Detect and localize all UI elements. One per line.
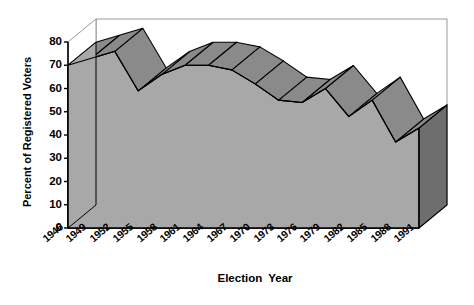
x-axis-tick-label: 1964 (180, 220, 205, 244)
x-axis-tick-label: 1982 (321, 220, 346, 244)
x-axis-tick-label: 1970 (227, 220, 252, 244)
x-axis-tick-label: 1988 (368, 220, 393, 244)
chart-container: Percent of Registered Voters 01020304050… (0, 0, 474, 305)
x-axis-tick-label: 1967 (204, 220, 229, 244)
x-axis-tick-label: 1976 (274, 220, 299, 244)
x-axis-tick-label: 1958 (134, 220, 159, 244)
x-axis-tick-label: 1949 (63, 220, 88, 244)
x-axis-tick-label: 1985 (344, 220, 369, 244)
x-axis-tick-label: 1991 (391, 220, 416, 244)
x-axis-tick-label: 1955 (110, 220, 135, 244)
x-axis-title: Election Year (0, 272, 474, 284)
x-axis-tick-label: 1946 (40, 220, 65, 244)
x-axis-tick-label: 1979 (297, 220, 322, 244)
x-axis-tick-label: 1952 (87, 220, 112, 244)
x-axis-tick-label: 1973 (251, 220, 276, 244)
x-axis-tick-label: 1961 (157, 220, 182, 244)
x-axis-tick-labels: 1946194919521955195819611964196719701973… (0, 0, 474, 305)
